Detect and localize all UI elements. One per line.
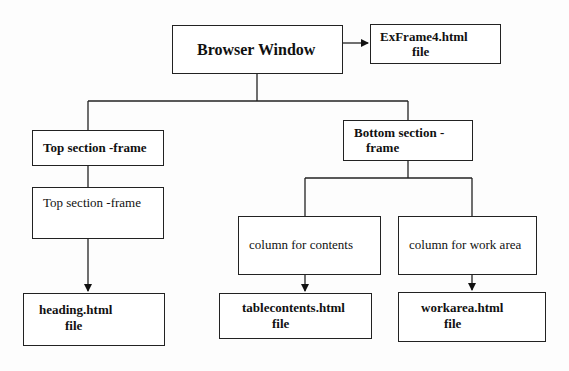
heading-file-node: heading.html file	[23, 293, 165, 346]
browser-window-label: Browser Window	[197, 41, 315, 59]
heading-label-line2: file	[65, 318, 82, 333]
tablecontents-label-line2: file	[272, 316, 289, 331]
top-section-frame-label: Top section -frame	[43, 140, 147, 155]
tablecontents-label-line1: tablecontents.html	[242, 300, 345, 315]
column-contents-node: column for contents	[238, 216, 381, 275]
top-section-content-label: Top section -frame	[43, 195, 141, 210]
heading-label-line1: heading.html	[39, 302, 112, 317]
frames-structure-diagram: Browser Window ExFrame4.html file Top se…	[0, 0, 569, 371]
bottom-section-label-line1: Bottom section -	[354, 125, 444, 140]
exframe4-file-node: ExFrame4.html file	[370, 24, 501, 64]
workarea-file-node: workarea.html file	[398, 292, 546, 342]
column-workarea-label: column for work area	[409, 237, 521, 252]
column-contents-label: column for contents	[249, 237, 353, 252]
top-section-frame-node: Top section -frame	[32, 130, 164, 166]
exframe4-label-line2: file	[412, 44, 429, 59]
top-section-content-node: Top section -frame	[32, 187, 164, 239]
bottom-section-label-line2: frame	[366, 140, 399, 155]
column-workarea-node: column for work area	[398, 216, 537, 275]
workarea-label-line1: workarea.html	[421, 300, 503, 315]
browser-window-node: Browser Window	[172, 25, 343, 74]
tablecontents-file-node: tablecontents.html file	[219, 293, 372, 339]
workarea-label-line2: file	[444, 316, 461, 331]
bottom-section-frame-node: Bottom section - frame	[343, 120, 473, 161]
exframe4-label-line1: ExFrame4.html	[380, 29, 468, 44]
